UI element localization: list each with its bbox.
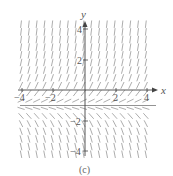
slope-segment xyxy=(27,90,32,96)
slope-segment xyxy=(145,151,146,158)
slope-segment xyxy=(114,143,116,150)
slope-segment xyxy=(17,107,24,109)
slope-segment xyxy=(106,135,108,142)
slope-segment xyxy=(33,107,40,109)
slope-segment xyxy=(21,36,22,43)
slope-segment xyxy=(130,51,131,58)
slope-segment xyxy=(105,90,110,96)
slope-segment xyxy=(58,113,63,119)
slope-segment xyxy=(60,28,61,35)
slope-segment xyxy=(112,113,117,119)
slope-segment xyxy=(51,143,53,150)
slope-segment xyxy=(99,20,100,27)
slope-segment xyxy=(98,66,100,73)
slope-segment xyxy=(19,120,22,127)
slope-segment xyxy=(98,128,101,135)
slope-segment xyxy=(97,120,100,127)
slope-segment xyxy=(90,66,92,73)
slope-segment xyxy=(106,151,107,158)
slope-segments xyxy=(17,20,149,157)
slope-segment xyxy=(36,43,37,50)
slope-segment xyxy=(127,99,134,102)
slope-segment xyxy=(59,59,61,66)
slope-segment xyxy=(120,90,125,96)
slope-segment xyxy=(106,36,107,43)
slope-segment xyxy=(88,107,95,109)
slope-segment xyxy=(26,113,31,119)
slope-segment xyxy=(114,66,116,73)
slope-segment xyxy=(36,135,38,142)
slope-segment xyxy=(103,99,110,102)
slope-segment xyxy=(58,120,61,127)
slope-segment xyxy=(34,113,39,119)
slope-segment xyxy=(59,74,61,81)
slope-segment xyxy=(52,151,53,158)
slope-segment xyxy=(36,28,37,35)
slope-segment xyxy=(89,90,94,96)
slope-segment xyxy=(90,143,92,150)
slope-segment xyxy=(144,82,147,89)
y-tick-label-4: 4 xyxy=(77,24,82,35)
slope-segment xyxy=(113,120,116,127)
slope-segment xyxy=(130,43,131,50)
slope-segment xyxy=(119,107,126,109)
slope-segment xyxy=(130,36,131,43)
slope-segment xyxy=(80,107,87,109)
slope-segment xyxy=(83,151,84,158)
slope-segment xyxy=(106,66,108,73)
slope-segment xyxy=(64,99,71,102)
slope-segment xyxy=(130,151,131,158)
slope-segment xyxy=(59,143,61,150)
slope-segment xyxy=(51,66,53,73)
slope-segment xyxy=(36,143,38,150)
slope-segment xyxy=(137,128,140,135)
slope-segment xyxy=(28,51,29,58)
slope-segment xyxy=(90,120,93,127)
slope-segment xyxy=(129,66,131,73)
slope-segment xyxy=(82,74,84,81)
slope-segment xyxy=(67,151,68,158)
slope-segment xyxy=(58,90,63,96)
y-tick-label-neg4: −4 xyxy=(70,146,81,157)
slope-segment xyxy=(36,51,37,58)
slope-segment xyxy=(35,82,38,89)
slope-segment xyxy=(106,28,107,35)
slope-segment xyxy=(145,20,146,27)
slope-segment xyxy=(122,43,123,50)
slope-segment xyxy=(44,36,45,43)
slope-segment xyxy=(56,107,63,109)
slope-segment xyxy=(35,128,38,135)
slope-segment xyxy=(90,128,93,135)
slope-segment xyxy=(97,113,102,119)
slope-segment xyxy=(59,151,60,158)
slope-segment xyxy=(44,151,45,158)
slope-segment xyxy=(134,107,141,109)
slope-segment xyxy=(129,143,131,150)
slope-segment xyxy=(20,151,21,158)
slope-segment xyxy=(51,59,53,66)
x-tick-label-4: 4 xyxy=(144,92,149,103)
slope-segment xyxy=(52,43,53,50)
slope-segment xyxy=(136,82,139,89)
slope-segment xyxy=(91,20,92,27)
slope-segment xyxy=(138,36,139,43)
slope-segment xyxy=(138,20,139,27)
slope-segment xyxy=(90,59,92,66)
y-tick-label-2: 2 xyxy=(77,55,82,66)
slope-segment xyxy=(36,20,37,27)
slope-segment xyxy=(121,82,124,89)
slope-field-figure: x y −4 −2 2 4 4 2 −2 −4 (c) xyxy=(0,0,173,176)
slope-segment xyxy=(28,66,30,73)
slope-segment xyxy=(44,43,45,50)
x-tick-label-2: 2 xyxy=(113,92,118,103)
slope-segment xyxy=(75,135,77,142)
slope-segment xyxy=(34,90,39,96)
slope-segment xyxy=(83,36,84,43)
slope-segment xyxy=(137,43,138,50)
slope-segment xyxy=(21,28,22,35)
slope-segment xyxy=(60,36,61,43)
slope-segment xyxy=(57,99,64,102)
slope-segment xyxy=(43,128,46,135)
slope-segment xyxy=(137,143,139,150)
slope-segment xyxy=(122,36,123,43)
